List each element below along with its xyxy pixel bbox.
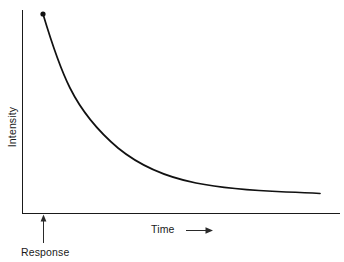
y-axis-label-text: Intensity — [7, 107, 18, 147]
y-axis-label: Intensity — [0, 92, 24, 162]
figure-container: Intensity Time Response — [0, 0, 344, 262]
response-arrow-head-icon — [41, 215, 47, 222]
response-annotation-label: Response — [21, 247, 69, 258]
curve-start-dot — [40, 11, 45, 16]
x-axis-label: Time — [151, 224, 175, 235]
time-arrow-head-icon — [206, 227, 214, 234]
intensity-decay-curve — [43, 14, 320, 194]
